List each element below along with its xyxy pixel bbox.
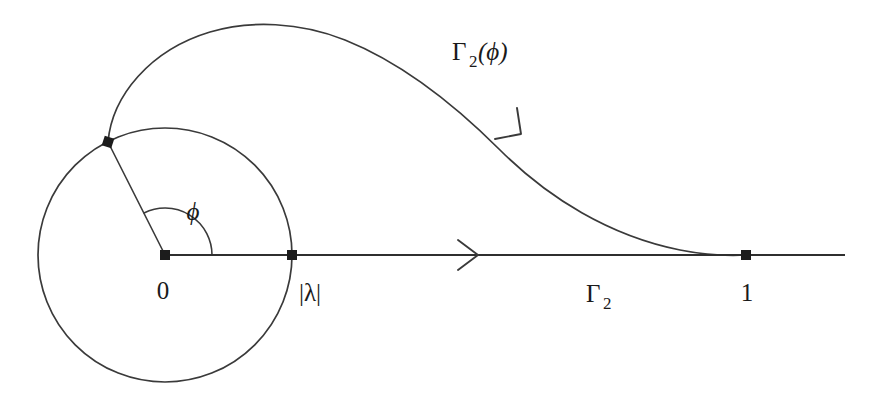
origin-point-marker	[160, 250, 170, 260]
gamma2-label-main: Γ	[586, 280, 600, 307]
unit-point-label: 1	[741, 279, 754, 306]
angle-arc	[144, 208, 212, 255]
unit-point-marker	[741, 250, 751, 260]
lambda-point-marker	[287, 250, 297, 260]
figure-root: 0 |λ| 1 ϕ Γ 2 Γ 2 (ϕ)	[0, 0, 878, 405]
gamma2-label-subscript: 2	[603, 294, 612, 313]
angle-phi-label: ϕ	[187, 198, 200, 225]
gamma2-axis-label: Γ 2	[586, 280, 612, 313]
contour-node-marker	[102, 136, 115, 149]
gamma2-phi-label-argument: (ϕ)	[478, 38, 508, 66]
gamma2-phi-label-subscript: 2	[469, 52, 478, 71]
gamma2-phi-label-main: Γ	[452, 38, 466, 65]
gamma2-phi-contour	[108, 24, 746, 255]
origin-label: 0	[157, 277, 170, 304]
contour-diagram: 0 |λ| 1 ϕ Γ 2 Γ 2 (ϕ)	[0, 0, 878, 405]
angle-radius-line	[108, 142, 165, 255]
lambda-modulus-label: |λ|	[299, 279, 321, 306]
gamma2-phi-label: Γ 2 (ϕ)	[452, 38, 508, 71]
contour-direction-arrow	[495, 108, 521, 139]
